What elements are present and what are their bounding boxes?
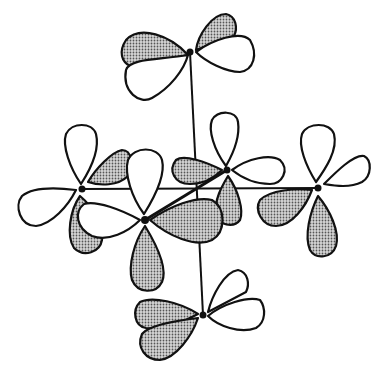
- atom-top: [187, 49, 194, 56]
- right-atom-orbitals: [258, 125, 370, 256]
- right-lobe-down: [308, 196, 337, 256]
- left-lobe-left: [18, 188, 76, 226]
- right-lobe-right: [324, 156, 370, 186]
- atom-back-right: [224, 167, 231, 174]
- right-lobe-left: [258, 189, 312, 226]
- front-lobe-left: [78, 203, 140, 238]
- back-right-lobe-up: [211, 113, 239, 166]
- orbital-diagram: [0, 0, 383, 376]
- atom-right: [315, 185, 322, 192]
- top-lobe-lower-left: [125, 55, 188, 100]
- right-lobe-up: [301, 125, 335, 182]
- front-lobe-down: [131, 226, 164, 291]
- atom-left: [79, 186, 86, 193]
- atom-bottom: [200, 312, 207, 319]
- orbital-diagram-canvas: [0, 0, 383, 376]
- back-right-lobe-right: [232, 157, 285, 184]
- front-lobe-right: [150, 199, 223, 242]
- top-atom-orbitals: [122, 14, 254, 100]
- atom-front: [141, 216, 149, 224]
- front-lobe-up: [127, 150, 163, 215]
- back-right-lobe-left: [172, 158, 222, 184]
